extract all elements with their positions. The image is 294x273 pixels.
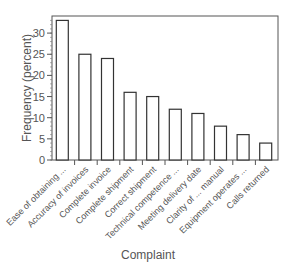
bars	[56, 20, 271, 160]
y-tick-label: 30	[33, 27, 45, 39]
y-tick-label: 0	[39, 154, 45, 166]
y-tick-label: 10	[33, 112, 45, 124]
bar	[192, 113, 204, 160]
bar	[169, 109, 181, 160]
y-axis: 051015202530	[33, 20, 52, 166]
y-tick-label: 5	[39, 133, 45, 145]
bar	[56, 20, 68, 160]
y-tick-label: 15	[33, 91, 45, 103]
y-tick-label: 25	[33, 48, 45, 60]
bar	[237, 135, 249, 160]
y-tick-label: 20	[33, 69, 45, 81]
x-axis-title: Complaint	[121, 248, 176, 262]
bar	[124, 92, 136, 160]
bar	[215, 126, 227, 160]
pareto-bar-chart: 051015202530 Ease of obtaining ...Accura…	[0, 0, 294, 273]
bar	[147, 97, 159, 160]
bar	[102, 58, 114, 160]
bar	[79, 54, 91, 160]
x-axis: Ease of obtaining ...Accuracy of invoice…	[4, 160, 271, 241]
bar	[260, 143, 272, 160]
y-axis-title: Frequency (percent)	[20, 34, 34, 142]
